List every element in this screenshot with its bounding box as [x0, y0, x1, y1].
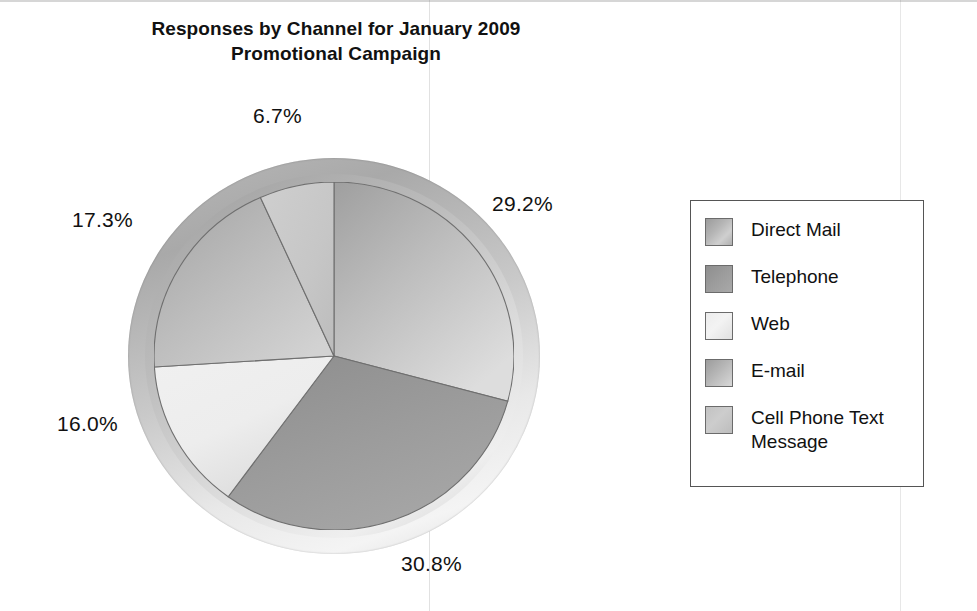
chart-page: Responses by Channel for January 2009 Pr… — [0, 0, 977, 611]
chart-legend: Direct Mail Telephone Web E-mail Cell Ph… — [690, 200, 924, 487]
legend-item-email[interactable]: E-mail — [691, 358, 923, 388]
pie-label-direct-mail: 29.2% — [492, 192, 553, 216]
legend-item-direct-mail[interactable]: Direct Mail — [691, 217, 923, 247]
pie-label-web: 16.0% — [57, 412, 118, 436]
chart-title-line-2: Promotional Campaign — [0, 41, 672, 66]
pie-label-cell-phone-text-message: 6.7% — [253, 104, 302, 128]
legend-item-cell-phone-text-message[interactable]: Cell Phone Text Message — [691, 405, 923, 454]
pie-label-email: 17.3% — [72, 208, 133, 232]
pie-label-telephone: 30.8% — [401, 552, 462, 576]
legend-label-cell-phone-text-message: Cell Phone Text Message — [751, 405, 913, 454]
chart-title: Responses by Channel for January 2009 Pr… — [0, 16, 672, 66]
pie-chart — [128, 158, 540, 554]
legend-label-email: E-mail — [751, 358, 805, 383]
legend-swatch-web — [705, 312, 733, 340]
legend-item-web[interactable]: Web — [691, 311, 923, 341]
legend-swatch-email — [705, 359, 733, 387]
legend-item-telephone[interactable]: Telephone — [691, 264, 923, 294]
legend-label-web: Web — [751, 311, 790, 336]
legend-swatch-cell-phone-text-message — [705, 406, 733, 434]
legend-swatch-direct-mail — [705, 218, 733, 246]
legend-label-telephone: Telephone — [751, 264, 839, 289]
scan-artifact-top — [0, 0, 977, 2]
legend-swatch-telephone — [705, 265, 733, 293]
chart-title-line-1: Responses by Channel for January 2009 — [0, 16, 672, 41]
pie-slices — [154, 182, 514, 530]
legend-label-direct-mail: Direct Mail — [751, 217, 841, 242]
